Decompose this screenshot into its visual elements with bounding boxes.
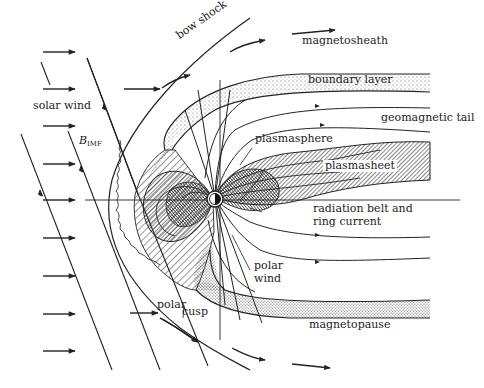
label-magnetopause: magnetopause (309, 319, 391, 331)
label-b-imf-main: B (79, 134, 87, 147)
label-polar-cusp-line2: cusp (182, 306, 208, 318)
label-magnetosheath: magnetosheath (302, 35, 388, 47)
label-polar-wind-line1: polar (254, 260, 283, 272)
label-geomagnetic-tail: geomagnetic tail (381, 112, 474, 124)
label-plasmasheet: plasmasheet (323, 160, 397, 172)
label-radiation-belt-line1: radiation belt and (313, 203, 413, 215)
label-boundary-layer: boundary layer (308, 74, 392, 86)
label-radiation-belt-line2: ring current (313, 216, 381, 228)
earth-icon (207, 191, 223, 207)
label-polar-wind-line2: wind (254, 273, 281, 285)
diagram-graphics (0, 0, 484, 388)
label-b-imf: BIMF (79, 135, 102, 150)
label-b-imf-sub: IMF (87, 140, 102, 148)
boundary-layer-lower (195, 281, 430, 318)
label-plasmasphere: plasmasphere (255, 133, 333, 145)
magnetosphere-diagram: magnetosheath bow shock boundary layer s… (0, 0, 484, 388)
label-solar-wind: solar wind (33, 100, 91, 112)
